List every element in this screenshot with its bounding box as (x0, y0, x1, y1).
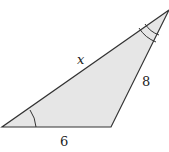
triangle-shape (2, 10, 169, 127)
label-6: 6 (60, 134, 68, 149)
label-8: 8 (142, 74, 150, 89)
label-x: x (77, 52, 85, 67)
triangle-diagram: x 8 6 (0, 0, 169, 152)
